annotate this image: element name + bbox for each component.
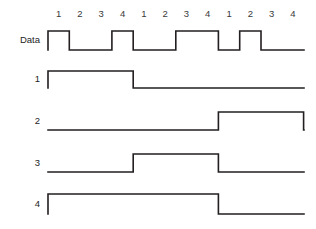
waveform-path-signal-4 bbox=[48, 194, 304, 214]
timing-diagram: 123412341234 Data1234 bbox=[0, 0, 316, 229]
waveform-row-signal-1: 1 bbox=[35, 71, 304, 88]
waveform-row-signal-2: 2 bbox=[35, 112, 304, 130]
timing-diagram-canvas: 123412341234 Data1234 bbox=[0, 0, 316, 229]
waveform-path-signal-3 bbox=[48, 154, 304, 172]
row-label-signal-1: 1 bbox=[35, 73, 40, 84]
tick-label-5: 2 bbox=[163, 8, 168, 19]
tick-label-0: 1 bbox=[56, 8, 61, 19]
tick-label-6: 3 bbox=[184, 8, 189, 19]
row-label-signal-2: 2 bbox=[35, 115, 40, 126]
tick-label-8: 1 bbox=[226, 8, 231, 19]
tick-label-9: 2 bbox=[248, 8, 253, 19]
waveform-rows: Data1234 bbox=[20, 31, 304, 214]
row-label-signal-3: 3 bbox=[35, 157, 40, 168]
tick-label-11: 4 bbox=[290, 8, 295, 19]
tick-label-row: 123412341234 bbox=[56, 8, 296, 19]
waveform-row-signal-4: 4 bbox=[35, 194, 304, 214]
waveform-path-signal-1 bbox=[48, 71, 304, 88]
row-label-signal-4: 4 bbox=[35, 198, 40, 209]
waveform-path-data bbox=[48, 31, 304, 50]
tick-label-7: 4 bbox=[205, 8, 210, 19]
tick-label-1: 2 bbox=[77, 8, 82, 19]
waveform-row-data: Data bbox=[20, 31, 304, 50]
tick-label-10: 3 bbox=[269, 8, 274, 19]
waveform-row-signal-3: 3 bbox=[35, 154, 304, 172]
tick-label-4: 1 bbox=[141, 8, 146, 19]
tick-label-3: 4 bbox=[120, 8, 125, 19]
tick-label-2: 3 bbox=[99, 8, 104, 19]
waveform-path-signal-2 bbox=[48, 112, 304, 130]
row-label-data: Data bbox=[20, 34, 41, 45]
